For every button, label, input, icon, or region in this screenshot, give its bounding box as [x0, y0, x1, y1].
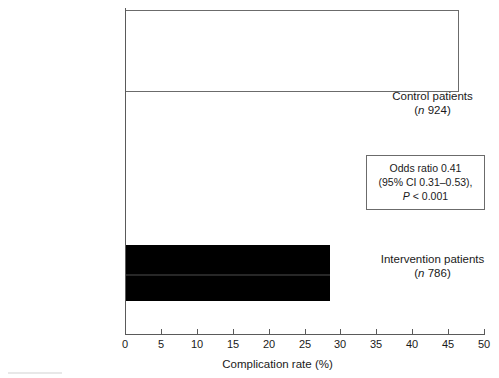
bar-control-patients [125, 10, 459, 92]
axis-tick-5 [161, 329, 162, 335]
bar-intervention-patients [125, 245, 330, 301]
value-axis-line [125, 334, 485, 335]
axis-tick-35 [376, 329, 377, 335]
sample-size-value: 786) [425, 267, 451, 279]
category-label-intervention-line2: (n 786) [374, 266, 491, 280]
axis-tick-label-25: 25 [290, 338, 320, 351]
axis-tick-30 [340, 329, 341, 335]
axis-tick-label-40: 40 [397, 338, 427, 351]
category-label-control-line2: (n 924) [374, 103, 491, 117]
axis-tick-15 [233, 329, 234, 335]
axis-tick-label-35: 35 [361, 338, 391, 351]
axis-tick-50 [484, 329, 485, 335]
odds-ratio-value: Odds ratio 0.41 [371, 161, 480, 175]
axis-tick-label-50: 50 [469, 338, 499, 351]
confidence-interval: (95% CI 0.31–0.53), [371, 175, 480, 189]
axis-tick-label-45: 45 [433, 338, 463, 351]
axis-tick-40 [412, 329, 413, 335]
axis-tick-45 [448, 329, 449, 335]
x-axis-title-text: Complication rate (%) [222, 358, 333, 370]
category-label-intervention-patients: Intervention patients (n 786) [374, 252, 499, 280]
category-label-intervention-line1: Intervention patients [381, 253, 485, 265]
complication-rate-bar-chart: 0 5 10 15 20 25 30 35 40 45 50 Complicat… [0, 0, 499, 378]
axis-tick-label-10: 10 [182, 338, 212, 351]
p-value: P < 0.001 [371, 189, 480, 203]
axis-tick-label-5: 5 [146, 338, 176, 351]
sample-size-value: 924) [425, 104, 451, 116]
axis-tick-25 [305, 329, 306, 335]
axis-tick-label-15: 15 [218, 338, 248, 351]
category-label-control-line1: Control patients [392, 90, 473, 102]
p-symbol: P [403, 190, 410, 202]
axis-tick-10 [197, 329, 198, 335]
axis-tick-label-20: 20 [254, 338, 284, 351]
axis-tick-20 [269, 329, 270, 335]
x-axis-title: Complication rate (%) [0, 358, 499, 370]
bar-scan-artifact [125, 274, 330, 276]
p-value-number: < 0.001 [410, 190, 448, 202]
category-label-control-patients: Control patients (n 924) [374, 89, 499, 117]
axis-tick-0 [125, 329, 126, 335]
axis-tick-label-30: 30 [325, 338, 355, 351]
category-axis-line [125, 8, 126, 334]
scan-artifact [8, 372, 62, 374]
axis-tick-label-0: 0 [110, 338, 140, 351]
odds-ratio-annotation-box: Odds ratio 0.41 (95% CI 0.31–0.53), P < … [366, 155, 485, 210]
